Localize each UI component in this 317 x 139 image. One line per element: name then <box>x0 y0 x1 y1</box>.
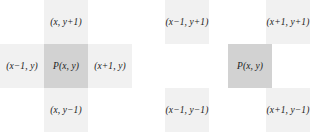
neighbourhood-figure: (x, y+1) (x−1, y) P(x, y) (x+1, y) (x, y… <box>0 0 317 139</box>
cell-right-label: (x+1, y) <box>94 61 125 71</box>
cell-bottom-left-label: (x−1, y−1) <box>166 105 209 115</box>
cell-top-label: (x, y+1) <box>50 17 81 27</box>
cell-bottom-right: (x+1, y−1) <box>266 88 310 132</box>
cell-bottom-label: (x, y−1) <box>50 105 81 115</box>
cell-top-left-label: (x−1, y+1) <box>166 17 209 27</box>
left-neighbourhood-panel: (x, y+1) (x−1, y) P(x, y) (x+1, y) (x, y… <box>0 0 158 139</box>
cell-bottom: (x, y−1) <box>44 88 88 132</box>
right-neighbourhood-panel: (x−1, y+1) (x+1, y+1) P(x, y) (x−1, y−1)… <box>158 0 317 139</box>
cell-bottom-left: (x−1, y−1) <box>165 88 209 132</box>
cell-top: (x, y+1) <box>44 0 88 44</box>
cell-center-label: P(x, y) <box>53 61 79 71</box>
cell-left-label: (x−1, y) <box>6 61 37 71</box>
cell-bottom-right-label: (x+1, y−1) <box>267 105 310 115</box>
cell-top-left: (x−1, y+1) <box>165 0 209 44</box>
cell-center-p: P(x, y) <box>44 44 88 88</box>
cell-top-right-label: (x+1, y+1) <box>267 17 310 27</box>
cell-top-right: (x+1, y+1) <box>266 0 310 44</box>
cell-right: (x+1, y) <box>88 44 132 88</box>
cell-center-p: P(x, y) <box>228 44 272 88</box>
cell-left: (x−1, y) <box>0 44 44 88</box>
cell-center-label: P(x, y) <box>237 61 263 71</box>
